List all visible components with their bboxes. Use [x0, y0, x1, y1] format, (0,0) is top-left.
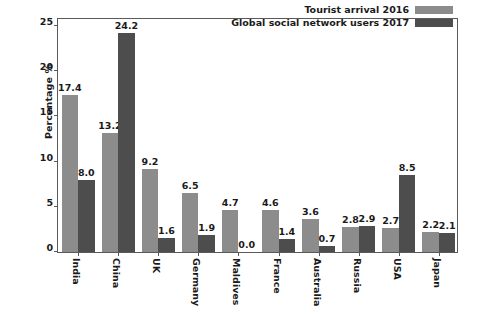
- x-tick-mark: [359, 252, 360, 256]
- bar-usa-social-network-users: [399, 175, 416, 252]
- x-tick-mark: [238, 252, 239, 256]
- y-axis-title: Percentage %: [43, 42, 54, 162]
- x-tick-mark: [158, 252, 159, 256]
- bar-russia-tourist-arrival: [342, 227, 359, 252]
- x-tick-label-france: France: [272, 258, 283, 294]
- x-tick-mark: [78, 252, 79, 256]
- bar-value-label: 17.4: [57, 82, 83, 93]
- x-tick-label-japan: Japan: [432, 258, 443, 288]
- x-tick-mark: [118, 252, 119, 256]
- bar-value-label: 2.1: [434, 220, 460, 231]
- bar-value-label: 6.5: [177, 180, 203, 191]
- bar-value-label: 8.0: [73, 167, 99, 178]
- y-tick-label: 0: [46, 242, 53, 253]
- legend-label: Tourist arrival 2016: [304, 4, 409, 15]
- x-tick-mark: [399, 252, 400, 256]
- bar-india-social-network-users: [78, 180, 95, 252]
- bar-value-label: 3.6: [297, 206, 323, 217]
- x-tick-mark: [279, 252, 280, 256]
- legend-swatch-tourist-arrival: [415, 6, 453, 14]
- bar-value-label: 2.9: [354, 213, 380, 224]
- bar-france-social-network-users: [279, 239, 296, 252]
- x-tick-mark: [319, 252, 320, 256]
- legend-label: Global social network users 2017: [231, 17, 409, 28]
- bar-china-social-network-users: [118, 33, 135, 252]
- x-tick-label-usa: USA: [392, 258, 403, 280]
- bar-value-label: 0.7: [314, 233, 340, 244]
- y-tick-label: 5: [46, 196, 53, 207]
- bar-japan-tourist-arrival: [422, 232, 439, 252]
- chart-legend: Tourist arrival 2016 Global social netwo…: [235, 3, 453, 29]
- bar-value-label: 24.2: [113, 20, 139, 31]
- x-tick-label-germany: Germany: [191, 258, 202, 306]
- bar-value-label: 1.6: [154, 225, 180, 236]
- bar-china-tourist-arrival: [102, 133, 119, 252]
- x-tick-label-india: India: [71, 258, 82, 285]
- x-tick-mark: [439, 252, 440, 256]
- bar-australia-social-network-users: [319, 246, 336, 252]
- bar-value-label: 0.0: [234, 239, 260, 250]
- bar-value-label: 8.5: [394, 162, 420, 173]
- y-tick-mark: [54, 25, 58, 26]
- bar-germany-social-network-users: [198, 235, 215, 252]
- x-tick-label-maldives: Maldives: [231, 258, 242, 305]
- bar-uk-social-network-users: [158, 238, 175, 252]
- legend-item: Tourist arrival 2016: [235, 3, 453, 16]
- bar-russia-social-network-users: [359, 226, 376, 252]
- bar-value-label: 1.9: [194, 222, 220, 233]
- y-tick-mark: [54, 115, 58, 116]
- legend-item: Global social network users 2017: [235, 16, 453, 29]
- y-tick-mark: [54, 206, 58, 207]
- y-tick-label: 25: [40, 16, 53, 27]
- bar-value-label: 1.4: [274, 226, 300, 237]
- y-tick-mark: [54, 161, 58, 162]
- bar-value-label: 9.2: [137, 156, 163, 167]
- plot-area: 0510152025 IndiaChinaUKGermanyMaldivesFr…: [57, 18, 458, 253]
- bar-chart-figure: 0510152025 IndiaChinaUKGermanyMaldivesFr…: [0, 0, 479, 318]
- legend-swatch-social-network-users: [415, 19, 453, 27]
- bar-value-label: 4.7: [217, 197, 243, 208]
- x-tick-label-australia: Australia: [312, 258, 323, 306]
- x-tick-mark: [198, 252, 199, 256]
- x-tick-label-china: China: [111, 258, 122, 288]
- bar-japan-social-network-users: [439, 233, 456, 252]
- y-tick-mark: [54, 251, 58, 252]
- bar-usa-tourist-arrival: [382, 228, 399, 252]
- x-tick-label-russia: Russia: [352, 258, 363, 293]
- y-tick-mark: [54, 70, 58, 71]
- bar-uk-tourist-arrival: [142, 169, 159, 252]
- bar-value-label: 4.6: [257, 197, 283, 208]
- x-tick-label-uk: UK: [151, 258, 162, 273]
